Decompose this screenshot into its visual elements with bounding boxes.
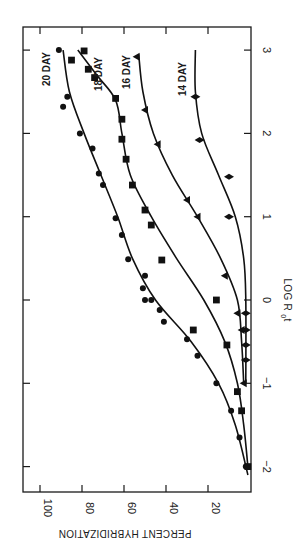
- series-label-18-day: 18 DAY: [93, 57, 104, 91]
- percent-tick-label: 60: [126, 502, 138, 514]
- axis-ticks: [23, 27, 251, 492]
- square-marker: [112, 95, 119, 102]
- circle-marker: [90, 145, 96, 151]
- circle-marker: [142, 273, 148, 279]
- circle-marker: [140, 285, 146, 291]
- fitted-curves: [63, 50, 248, 475]
- circle-marker: [100, 182, 106, 188]
- log-axis-title: LOG R 0t: [280, 279, 293, 322]
- square-marker: [190, 327, 197, 334]
- circle-marker: [96, 170, 102, 176]
- hybridization-chart: −2−1012320406080100LOG R 0tPERCENT HYBRI…: [0, 0, 295, 555]
- circle-marker: [195, 353, 201, 359]
- circle-marker: [228, 408, 234, 414]
- diamond-marker: [224, 174, 234, 180]
- plot-border: [23, 27, 251, 492]
- series-label-16-day: 16 DAY: [121, 55, 132, 89]
- square-marker: [68, 57, 75, 64]
- plot-frame: [23, 27, 251, 492]
- circle-marker: [77, 130, 83, 136]
- curve-20-day: [63, 50, 248, 475]
- circle-marker: [148, 297, 154, 303]
- square-marker: [142, 207, 149, 214]
- circle-marker: [142, 297, 148, 303]
- log-tick-label: −2: [261, 460, 273, 473]
- square-marker: [123, 156, 130, 163]
- log-tick-label: 3: [261, 47, 273, 53]
- square-marker: [245, 463, 252, 470]
- percent-axis-title: PERCENT HYBRIDIZATION: [58, 528, 191, 539]
- square-marker: [81, 48, 88, 55]
- circle-marker: [213, 380, 219, 386]
- circle-marker: [60, 104, 66, 110]
- square-marker: [148, 222, 155, 229]
- log-tick-label: −1: [261, 377, 273, 390]
- triangle-marker: [141, 106, 148, 114]
- square-marker: [158, 257, 165, 264]
- square-marker: [238, 407, 245, 414]
- circle-marker: [237, 434, 243, 440]
- circle-marker: [157, 307, 163, 313]
- diamond-marker: [241, 310, 251, 316]
- log-tick-label: 2: [261, 130, 273, 136]
- circle-marker: [161, 319, 167, 325]
- square-marker: [234, 388, 241, 395]
- square-marker: [213, 297, 220, 304]
- circle-marker: [125, 256, 131, 262]
- diamond-marker: [224, 214, 234, 220]
- log-tick-label: 0: [261, 297, 273, 303]
- percent-tick-label: 80: [84, 502, 96, 514]
- square-marker: [224, 342, 231, 349]
- percent-tick-label: 40: [168, 502, 180, 514]
- series-label-20-day: 20 DAY: [41, 52, 52, 86]
- circle-marker: [184, 336, 190, 342]
- triangle-marker: [221, 272, 228, 280]
- log-tick-label: 1: [261, 214, 273, 220]
- circle-marker: [119, 232, 125, 238]
- circle-marker: [113, 215, 119, 221]
- triangle-marker: [183, 196, 190, 204]
- circle-marker: [64, 94, 70, 100]
- square-marker: [119, 116, 126, 123]
- circle-marker: [56, 47, 62, 53]
- triangle-marker: [233, 309, 240, 317]
- series-label-14-day: 14 DAY: [177, 62, 188, 96]
- triangle-marker: [133, 53, 140, 61]
- percent-tick-label: 20: [210, 502, 222, 514]
- percent-tick-label: 100: [42, 499, 54, 517]
- square-marker: [129, 182, 136, 189]
- triangle-marker: [194, 213, 201, 221]
- diamond-marker: [190, 94, 200, 100]
- data-markers: [56, 47, 251, 470]
- square-marker: [119, 136, 126, 143]
- square-marker: [85, 66, 92, 73]
